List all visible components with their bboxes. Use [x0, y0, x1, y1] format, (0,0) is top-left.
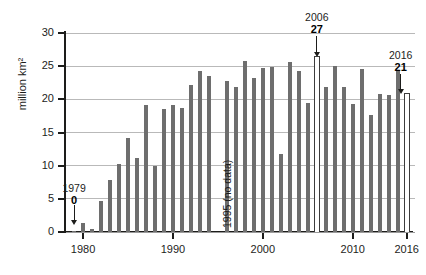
- bar-2007: [324, 87, 328, 232]
- bar-1989: [162, 109, 166, 232]
- bar-2000: [261, 68, 265, 232]
- y-axis-tick: [58, 165, 64, 167]
- arrow-shaft: [400, 74, 401, 89]
- bar-1994: [207, 76, 211, 232]
- y-axis-tick: [58, 32, 64, 34]
- x-axis-tick-label: 1980: [60, 243, 106, 255]
- no-data-note: 1995 (no data): [222, 160, 233, 228]
- bar-2011: [360, 69, 364, 232]
- y-axis-tick: [58, 231, 64, 233]
- bar-1990: [171, 105, 175, 232]
- y-axis-tick-label: 15: [20, 127, 54, 138]
- bar-2016: [404, 93, 410, 232]
- annotation-year-label: 1979: [44, 183, 104, 194]
- bar-1988: [153, 166, 157, 232]
- bar-1983: [108, 180, 112, 232]
- arrow-shaft: [316, 36, 317, 52]
- arrow-shaft: [74, 205, 75, 220]
- bar-2004: [297, 71, 301, 232]
- bar-2015: [396, 70, 400, 232]
- y-axis-tick: [58, 132, 64, 134]
- bar-1992: [189, 85, 193, 232]
- x-axis-tick: [262, 233, 264, 239]
- annotation-1979: 19790: [44, 183, 104, 206]
- bar-1979: [72, 231, 76, 232]
- bar-2014: [387, 95, 391, 232]
- bar-1993: [198, 71, 202, 232]
- bar-2005: [306, 103, 310, 232]
- annotation-value-label: 21: [371, 61, 426, 73]
- bar-2010: [351, 104, 355, 232]
- bar-1991: [180, 108, 184, 232]
- x-axis-tick: [82, 233, 84, 239]
- bar-2008: [333, 66, 337, 232]
- annotation-arrow-down-icon: [396, 74, 405, 94]
- annotation-arrow-down-icon: [70, 205, 79, 225]
- bar-1981: [90, 229, 94, 232]
- annotation-year-label: 2016: [371, 50, 426, 61]
- annotation-arrow-down-icon: [312, 36, 321, 57]
- bar-2012: [369, 115, 373, 232]
- bar-1984: [117, 164, 121, 232]
- bar-2006: [314, 56, 320, 232]
- bar-2009: [342, 87, 346, 232]
- bar-1999: [252, 78, 256, 232]
- annotation-2006: 200627: [287, 12, 347, 35]
- x-axis-tick-label: 1990: [150, 243, 196, 255]
- bar-1987: [144, 105, 148, 232]
- bar-1998: [243, 61, 247, 232]
- x-axis-tick-label: 2010: [330, 243, 376, 255]
- annotation-2016: 201621: [371, 50, 426, 73]
- bar-2003: [288, 62, 292, 232]
- y-axis-tick-label: 25: [20, 60, 54, 71]
- x-axis-tick-label: 2016: [384, 243, 426, 255]
- bar-2013: [378, 94, 382, 232]
- annotation-year-label: 2006: [287, 12, 347, 23]
- ozone-hole-area-bar-chart: million km² 051015202530 198019902000201…: [0, 0, 426, 275]
- y-axis-tick-label: 20: [20, 93, 54, 104]
- y-axis-tick: [58, 98, 64, 100]
- x-axis-tick-label: 2000: [240, 243, 286, 255]
- annotation-value-label: 27: [287, 23, 347, 35]
- y-axis-tick-label: 0: [20, 226, 54, 237]
- x-axis-tick: [172, 233, 174, 239]
- bar-1986: [135, 158, 139, 232]
- bar-1980: [81, 223, 85, 232]
- x-axis-tick: [406, 233, 408, 239]
- bar-2002: [279, 154, 283, 232]
- arrow-head: [71, 220, 77, 225]
- bar-1985: [126, 138, 130, 232]
- y-axis-tick: [58, 65, 64, 67]
- bar-2001: [270, 67, 274, 232]
- plot-area: [66, 33, 413, 232]
- x-axis-tick: [352, 233, 354, 239]
- annotation-value-label: 0: [44, 194, 104, 206]
- y-axis-tick-label: 30: [20, 27, 54, 38]
- y-axis-tick-label: 10: [20, 160, 54, 171]
- bar-1997: [234, 87, 238, 232]
